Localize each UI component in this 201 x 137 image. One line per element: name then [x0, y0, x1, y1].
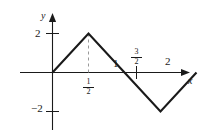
- y-tick-label-negative-2: −2: [31, 103, 43, 114]
- x-tick-label-1: 1: [113, 58, 119, 69]
- x-axis-label: x: [188, 76, 192, 86]
- y-axis-label: y: [41, 11, 45, 21]
- fraction-denominator: 2: [131, 58, 142, 66]
- x-tick-label-three-halves: 3 2: [131, 48, 142, 67]
- y-tick-label-2: 2: [35, 28, 41, 39]
- x-axis: [20, 69, 190, 76]
- x-tick-label-2: 2: [165, 56, 171, 67]
- triangular-wave-figure: y x 2 −2 1 2 1 2 3 2: [0, 0, 201, 137]
- fraction-denominator: 2: [83, 88, 94, 96]
- fraction-numerator: 1: [83, 78, 94, 86]
- fraction-numerator: 3: [131, 48, 142, 56]
- x-tick-label-one-half: 1 2: [83, 78, 94, 97]
- y-axis-arrowhead: [49, 13, 56, 22]
- plot-canvas: [0, 0, 201, 137]
